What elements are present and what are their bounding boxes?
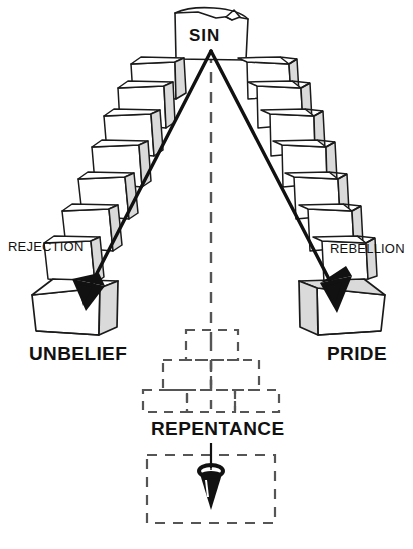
pyramid-block-mid-right (211, 360, 259, 390)
pyramid-block-bottom-right (235, 390, 279, 412)
label-repentance: REPENTANCE (151, 418, 285, 440)
label-rebellion: REBELLION (330, 241, 405, 256)
pyramid-block-bottom-left (143, 390, 187, 412)
pyramid-block-mid-left (163, 360, 211, 390)
unbelief-base-block (32, 279, 118, 335)
sin-arch-illustration (0, 0, 413, 549)
label-rejection: REJECTION (8, 239, 83, 254)
repentance-arrowhead (199, 443, 223, 510)
label-sin: SIN (189, 26, 220, 46)
label-pride: PRIDE (327, 343, 387, 365)
diagram-canvas: SIN REJECTION REBELLION UNBELIEF PRIDE R… (0, 0, 413, 549)
label-unbelief: UNBELIEF (29, 343, 127, 365)
